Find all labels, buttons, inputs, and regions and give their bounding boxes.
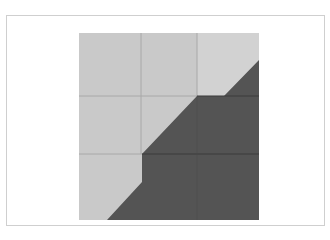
grid-block-photo bbox=[79, 33, 259, 220]
grid-block-graphic bbox=[79, 33, 259, 220]
